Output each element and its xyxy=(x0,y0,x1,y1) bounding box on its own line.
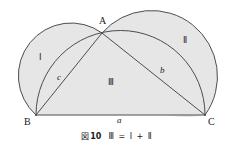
vertex-dot-c xyxy=(204,114,206,116)
vertex-label-b: B xyxy=(24,117,31,127)
lunes-of-hippocrates-diagram xyxy=(0,0,234,149)
caption-figure-number: 10 xyxy=(90,132,101,141)
vertex-label-c: C xyxy=(208,117,215,127)
caption-figure-word: 図 xyxy=(81,132,89,141)
vertex-label-a: A xyxy=(99,16,106,26)
figure-container: A B C a b c Ⅰ Ⅱ Ⅲ 図10Ⅲ = Ⅰ + Ⅱ xyxy=(0,0,234,149)
vertex-dot-b xyxy=(35,114,37,116)
side-label-a: a xyxy=(117,116,122,125)
figure-caption: 図10Ⅲ = Ⅰ + Ⅱ xyxy=(0,130,234,141)
side-label-b: b xyxy=(160,66,165,75)
vertex-dot-a xyxy=(101,32,103,34)
region-label-triangle: Ⅲ xyxy=(108,78,114,87)
caption-equation: Ⅲ = Ⅰ + Ⅱ xyxy=(108,132,152,141)
side-label-c: c xyxy=(57,73,61,82)
region-label-lune-right: Ⅱ xyxy=(183,36,187,45)
region-label-lune-left: Ⅰ xyxy=(39,53,42,62)
